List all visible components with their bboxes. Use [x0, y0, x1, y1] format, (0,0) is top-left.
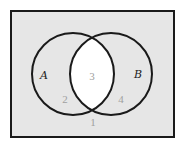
- region-4-label: 4: [118, 93, 124, 105]
- venn-diagram: A B 1 2 3 4: [0, 0, 182, 144]
- set-a-label: A: [39, 69, 48, 82]
- region-1-label: 1: [90, 116, 96, 128]
- region-2-label: 2: [62, 93, 68, 105]
- set-b-label: B: [133, 68, 142, 81]
- region-3-label: 3: [89, 70, 95, 82]
